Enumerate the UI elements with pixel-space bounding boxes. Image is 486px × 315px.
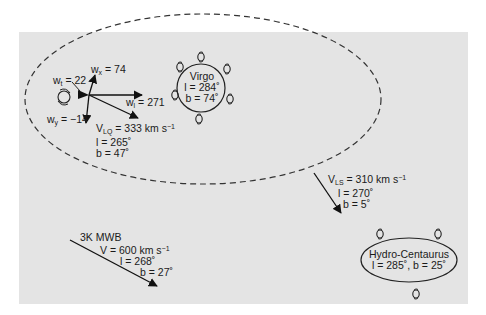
hydra-centaurus-label: Hydro-Centaurus l = 285˚, b = 25˚ [361,249,457,271]
local-supercluster-velocity-label: VLS = 310 km s−1 l = 270˚ b = 5˚ [328,172,406,210]
wx-label: wx = 74 [91,64,126,78]
virgo-label: Virgo l = 284˚ b = 74˚ [181,71,223,104]
wl-label: wl = 271 [126,97,165,111]
wt-label: wt = 22 [53,75,86,89]
local-group-velocity-label: VLQ = 333 km s−1 l = 265˚ b = 47˚ [96,121,175,159]
cmb-label: 3K MWB V = 600 km s−1 l = 268˚ b = 27˚ [80,232,173,278]
milky-way-icon [58,89,70,105]
wy-label: wy = −14 [47,114,88,128]
